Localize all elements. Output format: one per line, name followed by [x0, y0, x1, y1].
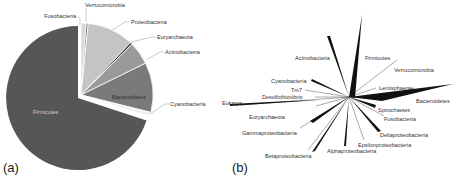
tree-label-cyanobacteria: Cyanobacteria — [271, 78, 307, 84]
tree-label-tm7: Tm7 — [291, 87, 302, 93]
pie-exploded-group — [81, 23, 153, 116]
pie-label-actinobacteria: Actinobacteria — [165, 49, 201, 55]
wedge-eukarya — [230, 100, 320, 106]
wedge-firmicutes — [349, 15, 362, 98]
tree-label-euryarchaeota: Euryarchaeota — [249, 114, 286, 120]
wedge-betaproteobacteria — [312, 97, 349, 152]
wedge-alphaproteobacteria — [344, 97, 349, 146]
wedge-actinobacteria — [327, 36, 349, 97]
tree-label-eukarya: Eukarya — [222, 100, 243, 106]
tree-label-deltaproteobacteria: Deltaproteobacteria — [380, 132, 429, 138]
tree-label-desulfothiovibrio: Desulfothiovibrio — [262, 94, 303, 100]
tree-label-spirochaetes: Spirochaetes — [378, 107, 410, 113]
tree-label-actinobacteria: Actinobacteria — [295, 55, 331, 61]
pie-label-verrucomicrobia: Verrucomicrobia — [85, 2, 126, 8]
pie-chart: Fusobacteria Verrucomicrobia Proteobacte… — [3, 2, 206, 175]
pie-label-euryarchaeota: Euryarchaeota — [157, 34, 194, 40]
wedge-cyanobacteria — [311, 79, 349, 97]
tree-label-betaproteobacteria: Betaproteobacteria — [265, 153, 312, 159]
panel-label-b: (b) — [232, 160, 248, 175]
tree-label-lentisphaerae: Lentisphaerae — [379, 85, 414, 91]
tree-label-verrucomicrobia: Verrucomicrobia — [394, 67, 435, 73]
pie-label-fusobacteria: Fusobacteria — [44, 13, 77, 19]
pie-label-bacteroidetes: Bacteroidetes — [112, 94, 146, 100]
tree-label-alphaproteobacteria: Alphaproteobacteria — [327, 148, 377, 154]
wedge-gammaproteobacteria — [310, 97, 349, 123]
tree-label-fusobacteria: Fusobacteria — [384, 116, 417, 122]
phylogenetic-tree: Actinobacteria Firmicutes Verrucomicrobi… — [222, 15, 453, 175]
pie-label-cyanobacteria: Cyanobacteria — [170, 101, 206, 107]
tree-label-bacteroidetes: Bacteroidetes — [416, 98, 450, 104]
panel-label-a: (a) — [3, 160, 19, 175]
pie-label-firmicutes: Firmicutes — [33, 109, 59, 115]
tree-label-firmicutes: Firmicutes — [365, 55, 391, 61]
tree-label-gammaproteobacteria: Gammaproteobacteria — [242, 130, 298, 136]
pie-label-proteobacteria: Proteobacteria — [131, 19, 168, 25]
figure: Fusobacteria Verrucomicrobia Proteobacte… — [0, 0, 458, 182]
